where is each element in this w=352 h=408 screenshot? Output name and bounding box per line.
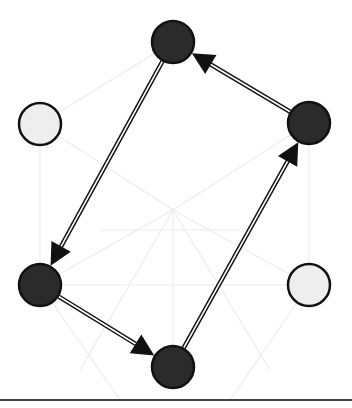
ghost-edge [80, 210, 173, 370]
node-right[interactable] [288, 102, 330, 144]
node-bottom-right[interactable] [288, 264, 330, 306]
node-top[interactable] [152, 21, 194, 63]
edge-top-to-bottom-left [51, 61, 163, 265]
node-bottom-left[interactable] [19, 264, 61, 306]
ghost-edge [173, 123, 309, 210]
edge-bottom-to-right [184, 142, 299, 348]
graph-canvas [0, 0, 352, 408]
node-bottom[interactable] [152, 346, 194, 388]
graph-diagram [0, 0, 352, 408]
edge-right-to-top [192, 53, 290, 111]
directed-edges [51, 53, 299, 355]
node-left[interactable] [19, 103, 61, 145]
graph-nodes [19, 21, 330, 388]
ghost-edge [173, 210, 270, 370]
edge-bottom-left-to-bottom [59, 297, 155, 356]
